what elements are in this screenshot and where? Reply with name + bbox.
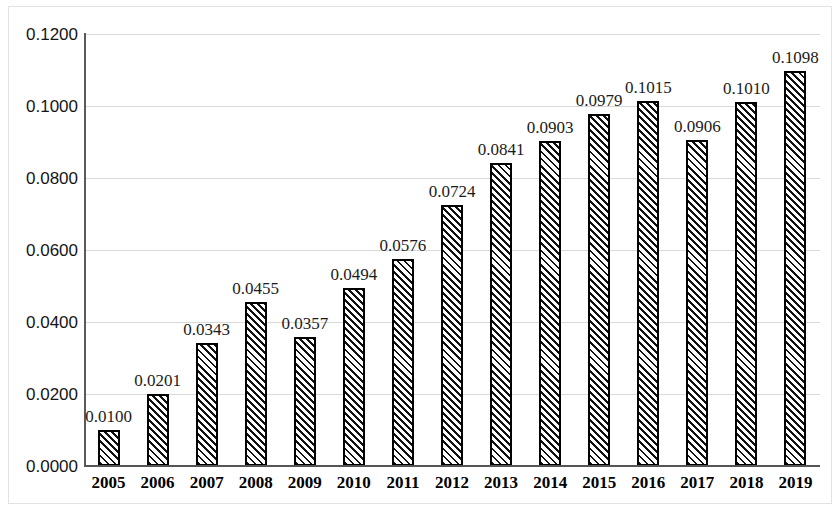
y-axis-tick-label: 0.0200	[6, 386, 78, 403]
bar	[441, 205, 463, 466]
bar-value-label: 0.0455	[221, 280, 291, 297]
bar-chart: 0.00000.02000.04000.06000.08000.10000.12…	[0, 0, 840, 511]
bar-value-label: 0.1010	[711, 80, 781, 97]
gridline	[84, 178, 820, 179]
bar	[392, 259, 414, 466]
bar	[735, 102, 757, 466]
bar	[294, 337, 316, 466]
bar-value-label: 0.0576	[368, 237, 438, 254]
bar-value-label: 0.0100	[74, 408, 144, 425]
bar	[98, 430, 120, 466]
bar	[539, 141, 561, 466]
bar	[147, 394, 169, 466]
bar-value-label: 0.0906	[662, 118, 732, 135]
bar-value-label: 0.1015	[613, 79, 683, 96]
x-axis-line	[84, 465, 820, 467]
bar-value-label: 0.0724	[417, 183, 487, 200]
y-axis-tick-label: 0.0600	[6, 242, 78, 259]
bar	[686, 140, 708, 466]
bar-value-label: 0.0343	[172, 321, 242, 338]
y-axis-line	[84, 33, 86, 467]
y-axis-tick-label: 0.0000	[6, 458, 78, 475]
bar-value-label: 0.0903	[515, 119, 585, 136]
bar-value-label: 0.0357	[270, 315, 340, 332]
y-axis-tick-label: 0.0400	[6, 314, 78, 331]
y-axis-tick-labels: 0.00000.02000.04000.06000.08000.10000.12…	[0, 0, 78, 511]
y-axis-tick-label: 0.1200	[6, 26, 78, 43]
y-axis-tick-label: 0.1000	[6, 98, 78, 115]
bar	[637, 101, 659, 466]
bar-value-label: 0.1098	[760, 49, 830, 66]
plot-area	[84, 34, 820, 466]
bar	[784, 71, 806, 466]
gridline	[84, 106, 820, 107]
bar	[588, 114, 610, 466]
x-axis-category-label: 2019	[765, 474, 825, 491]
bar	[490, 163, 512, 466]
bar	[343, 288, 365, 466]
y-axis-tick-label: 0.0800	[6, 170, 78, 187]
gridline	[84, 34, 820, 35]
bar-value-label: 0.0201	[123, 372, 193, 389]
bar	[196, 343, 218, 466]
bar	[245, 302, 267, 466]
bar-value-label: 0.0494	[319, 266, 389, 283]
bar-value-label: 0.0841	[466, 141, 536, 158]
